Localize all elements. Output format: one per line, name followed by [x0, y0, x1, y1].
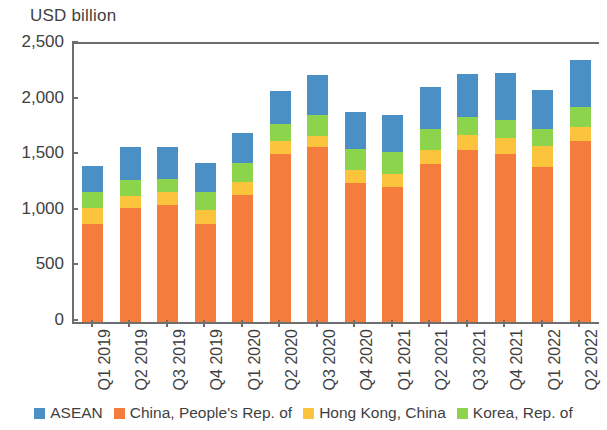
bar-segment[interactable]: [570, 107, 591, 127]
bar-segment[interactable]: [382, 115, 403, 152]
bar-column[interactable]: [487, 44, 524, 322]
bar-segment[interactable]: [345, 149, 366, 170]
bar-segment[interactable]: [570, 60, 591, 108]
bar-segment[interactable]: [532, 129, 553, 146]
legend-item[interactable]: Korea, Rep. of: [457, 404, 573, 422]
stacked-bar[interactable]: [420, 87, 441, 322]
bar-segment[interactable]: [457, 117, 478, 135]
bar-column[interactable]: [224, 44, 261, 322]
bar-segment[interactable]: [495, 138, 516, 154]
legend-swatch-icon: [114, 408, 125, 419]
bar-segment[interactable]: [120, 208, 141, 322]
bar-segment[interactable]: [232, 163, 253, 182]
bar-segment[interactable]: [495, 154, 516, 322]
bar-column[interactable]: [562, 44, 599, 322]
bar-column[interactable]: [74, 44, 111, 322]
bar-column[interactable]: [149, 44, 186, 322]
bar-column[interactable]: [524, 44, 561, 322]
bar-column[interactable]: [412, 44, 449, 322]
stacked-bar[interactable]: [457, 74, 478, 323]
bar-segment[interactable]: [120, 147, 141, 179]
bar-segment[interactable]: [195, 210, 216, 224]
bar-segment[interactable]: [382, 187, 403, 322]
bar-column[interactable]: [374, 44, 411, 322]
x-axis-label-slot: Q4 2020: [335, 329, 372, 399]
bar-segment[interactable]: [532, 167, 553, 322]
stacked-bar[interactable]: [232, 133, 253, 322]
bar-column[interactable]: [112, 44, 149, 322]
bar-column[interactable]: [187, 44, 224, 322]
bar-segment[interactable]: [457, 135, 478, 150]
bar-segment[interactable]: [495, 73, 516, 120]
stacked-bar[interactable]: [307, 75, 328, 322]
bar-segment[interactable]: [495, 120, 516, 138]
bar-segment[interactable]: [232, 133, 253, 163]
bar-segment[interactable]: [420, 164, 441, 322]
legend-swatch-icon: [457, 408, 468, 419]
bar-segment[interactable]: [270, 154, 291, 322]
bar-segment[interactable]: [270, 141, 291, 154]
stacked-bar[interactable]: [532, 90, 553, 322]
bar-segment[interactable]: [120, 196, 141, 208]
bar-segment[interactable]: [345, 112, 366, 149]
bar-segment[interactable]: [82, 166, 103, 192]
bar-segment[interactable]: [345, 170, 366, 183]
bar-segment[interactable]: [457, 74, 478, 118]
y-axis-tick-label: 0: [55, 310, 64, 330]
legend-swatch-icon: [303, 408, 314, 419]
stacked-bar[interactable]: [120, 147, 141, 322]
stacked-bar[interactable]: [382, 115, 403, 322]
bar-segment[interactable]: [157, 147, 178, 179]
bar-segment[interactable]: [307, 75, 328, 115]
bar-segment[interactable]: [307, 147, 328, 322]
bar-segment[interactable]: [270, 124, 291, 141]
legend-item[interactable]: ASEAN: [34, 404, 103, 422]
stacked-bar[interactable]: [570, 60, 591, 322]
stacked-bar[interactable]: [270, 91, 291, 322]
bar-segment[interactable]: [232, 182, 253, 195]
stacked-bar[interactable]: [157, 147, 178, 322]
bar-segment[interactable]: [420, 87, 441, 129]
bar-segment[interactable]: [532, 146, 553, 167]
bar-segment[interactable]: [532, 90, 553, 129]
bar-segment[interactable]: [82, 208, 103, 224]
bar-segment[interactable]: [120, 180, 141, 196]
bar-segment[interactable]: [570, 141, 591, 322]
bar-segment[interactable]: [382, 152, 403, 174]
bar-segment[interactable]: [420, 150, 441, 164]
bar-segment[interactable]: [195, 192, 216, 210]
bar-segment[interactable]: [382, 174, 403, 187]
bar-segment[interactable]: [157, 205, 178, 322]
stacked-bar[interactable]: [495, 73, 516, 322]
bar-column[interactable]: [299, 44, 336, 322]
stacked-bar[interactable]: [82, 166, 103, 322]
bar-segment[interactable]: [307, 136, 328, 147]
bar-segment[interactable]: [195, 224, 216, 322]
x-axis-label-slot: Q3 2021: [447, 329, 484, 399]
bar-column[interactable]: [449, 44, 486, 322]
y-axis-unit-label: USD billion: [30, 6, 116, 26]
bar-segment[interactable]: [195, 163, 216, 192]
bar-segment[interactable]: [345, 183, 366, 322]
legend-item[interactable]: China, People's Rep. of: [114, 404, 292, 422]
bar-segment[interactable]: [157, 179, 178, 192]
y-axis-tick-label: 2,500: [21, 32, 64, 52]
bar-segment[interactable]: [457, 150, 478, 322]
bar-segment[interactable]: [82, 192, 103, 208]
legend-item[interactable]: Hong Kong, China: [303, 404, 446, 422]
bar-segment[interactable]: [82, 224, 103, 322]
bar-segment[interactable]: [157, 192, 178, 205]
bar-segment[interactable]: [270, 91, 291, 124]
bar-segment[interactable]: [307, 115, 328, 136]
stacked-bar[interactable]: [195, 163, 216, 322]
bar-segment[interactable]: [232, 195, 253, 322]
bar-column[interactable]: [262, 44, 299, 322]
x-axis-label-slot: Q2 2020: [260, 329, 297, 399]
bar-column[interactable]: [337, 44, 374, 322]
chart-legend: ASEANChina, People's Rep. ofHong Kong, C…: [0, 404, 607, 422]
bar-segment[interactable]: [570, 127, 591, 141]
bar-segment[interactable]: [420, 129, 441, 150]
stacked-bar[interactable]: [345, 112, 366, 322]
stacked-bar-chart: USD billion 05001,0001,5002,0002,500 Q1 …: [0, 0, 607, 430]
legend-label: Hong Kong, China: [319, 404, 446, 422]
